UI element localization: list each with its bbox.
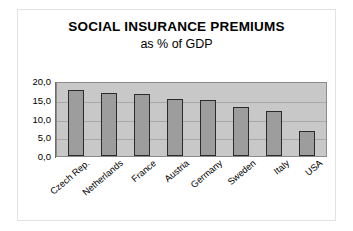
bar-slot [258, 83, 291, 156]
bar-slot [225, 83, 258, 156]
chart-title: SOCIAL INSURANCE PREMIUMS [18, 19, 335, 35]
y-axis-tick-label: 0,0 [38, 152, 51, 162]
bar [299, 131, 315, 156]
x-axis-tick-label: USA [304, 158, 325, 178]
plot-area [56, 82, 327, 157]
bar [167, 99, 183, 156]
bar-slot [291, 83, 324, 156]
bar-slot [125, 83, 158, 156]
bar-slot [192, 83, 225, 156]
chart-container: SOCIAL INSURANCE PREMIUMS as % of GDP 20… [17, 9, 336, 221]
chart-subtitle: as % of GDP [18, 36, 335, 52]
bar [233, 107, 249, 156]
x-axis-tick-label: Austria [163, 158, 191, 184]
y-axis-tick-label: 10,0 [33, 115, 52, 125]
x-axis-category-labels: Czech Rep.NetherlandsFranceAustriaGerman… [56, 158, 327, 220]
bar [101, 93, 117, 156]
x-axis-tick-label: France [130, 158, 158, 184]
chart-title-block: SOCIAL INSURANCE PREMIUMS as % of GDP [18, 19, 335, 52]
bar-series [57, 83, 326, 156]
y-axis-tick-labels: 20,015,010,05,00,0 [18, 76, 54, 163]
bar-slot [59, 83, 92, 156]
y-axis-tick-label: 20,0 [33, 77, 52, 87]
bar [266, 111, 282, 156]
x-axis-tick-label: Italy [272, 158, 291, 176]
bar [200, 100, 216, 156]
bar [134, 94, 150, 156]
bar-slot [92, 83, 125, 156]
bar-slot [158, 83, 191, 156]
y-axis-tick-label: 5,0 [38, 133, 51, 143]
x-axis-tick-label: Sweden [226, 158, 258, 187]
plot-wrapper [56, 82, 327, 157]
bar [68, 90, 84, 156]
x-axis-tick-label: Germany [189, 158, 224, 190]
y-axis-tick-label: 15,0 [33, 96, 52, 106]
